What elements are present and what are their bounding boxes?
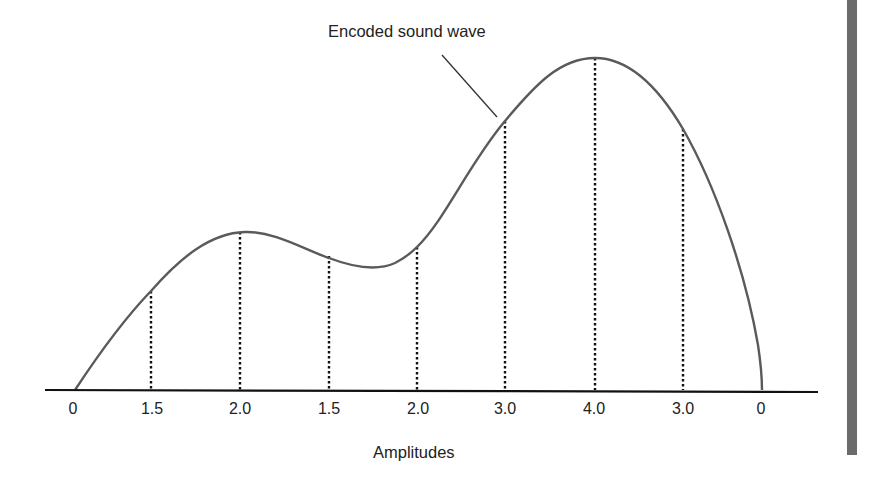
page-edge-bar	[847, 0, 857, 455]
tick-label: 1.5	[141, 400, 163, 418]
tick-label: 3.0	[672, 400, 694, 418]
tick-label: 2.0	[407, 400, 429, 418]
tick-label: 0	[69, 400, 78, 418]
tick-label: 0	[757, 400, 766, 418]
sound-wave-diagram: Encoded sound wave 0 1.5 2.0 1.5 2.0 3.0…	[0, 0, 869, 492]
tick-label: 1.5	[318, 400, 340, 418]
sample-lines	[151, 58, 683, 390]
baseline-axis	[45, 390, 818, 392]
wave-plot	[0, 0, 869, 492]
sound-wave-curve	[75, 58, 762, 390]
tick-label: 2.0	[229, 400, 251, 418]
tick-label: 4.0	[583, 400, 605, 418]
callout-leader-line	[442, 55, 497, 117]
tick-label: 3.0	[494, 400, 516, 418]
callout-label: Encoded sound wave	[328, 22, 486, 41]
axis-title: Amplitudes	[373, 443, 455, 462]
